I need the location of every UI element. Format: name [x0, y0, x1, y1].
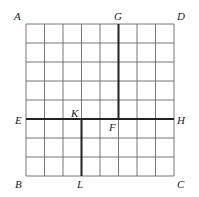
- label-C: C: [177, 178, 185, 190]
- label-L: L: [76, 178, 83, 190]
- square-grid: [26, 24, 174, 176]
- label-H: H: [176, 114, 186, 126]
- label-F: F: [108, 121, 116, 133]
- label-B: B: [15, 178, 22, 190]
- grid-diagram: A G D E K F H B L C: [0, 0, 199, 197]
- label-K: K: [70, 107, 79, 119]
- label-G: G: [114, 10, 122, 22]
- label-D: D: [176, 10, 185, 22]
- label-E: E: [14, 114, 22, 126]
- label-A: A: [13, 10, 21, 22]
